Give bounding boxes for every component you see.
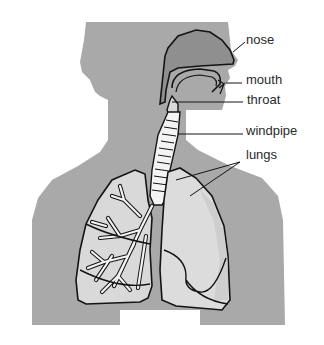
label-lungs: lungs xyxy=(246,148,277,161)
label-mouth: mouth xyxy=(246,73,282,86)
label-windpipe: windpipe xyxy=(246,124,297,137)
nose-leader xyxy=(233,42,245,52)
label-nose: nose xyxy=(246,33,274,46)
respiratory-diagram xyxy=(0,0,324,345)
label-throat: throat xyxy=(247,93,280,106)
